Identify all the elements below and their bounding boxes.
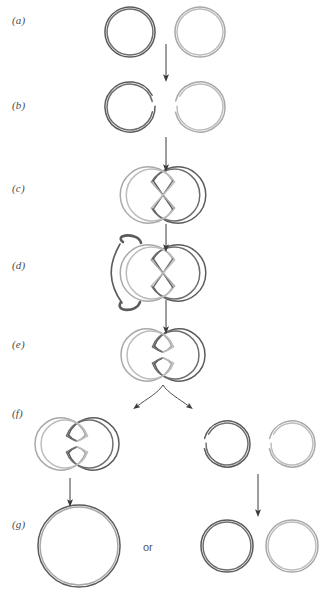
panel-label-a: (a) [12,14,25,26]
arrow-e-to-f-left [136,385,163,407]
panel-f-circle-light-nicked-right [269,421,315,467]
panel-e-figure-eight-pinched [121,329,205,381]
panel-label-b: (b) [12,99,25,111]
figure-canvas: (a) (b) (c) (d) (e) (f) (g) or [0,0,326,593]
panel-a-circle-light [175,7,225,57]
panel-a-circle-dark [105,7,155,57]
arrow-layer [70,44,258,513]
panel-g-circle-dark-small [201,520,253,572]
panel-b-circle-dark-nicked [105,82,155,132]
panel-label-e: (e) [12,338,25,350]
panel-d-figure-eight-wrapped [111,235,206,310]
shape-layer [35,7,318,587]
panel-label-d: (d) [12,259,25,271]
panel-f-figure-eight-pinched-left [35,418,119,470]
panel-label-c: (c) [12,182,25,194]
panel-c-figure-eight-crossed [120,167,206,223]
panel-g-circle-light-small [266,520,318,572]
panel-f-circle-dark-nicked-right [204,421,250,467]
panel-g-circle-fused-large [38,505,120,587]
panel-label-g: (g) [12,518,25,530]
wrap-strand-top [121,235,141,243]
arrow-e-to-f-right [163,385,190,407]
or-separator-label: or [143,541,153,553]
panel-b-circle-light-nicked [176,82,226,132]
panel-label-f: (f) [12,407,23,419]
recombination-diagram [0,0,326,593]
